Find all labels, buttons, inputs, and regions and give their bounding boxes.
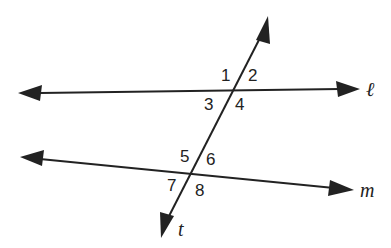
angle-4-label: 4 [235, 95, 244, 114]
arrowhead-down-icon [160, 212, 174, 238]
arrowhead-right-icon [336, 81, 360, 97]
angle-6-label: 6 [206, 150, 215, 169]
angle-3-label: 3 [204, 95, 213, 114]
arrowhead-right-icon [328, 180, 354, 196]
line-t-label: t [178, 218, 184, 240]
line-t [160, 16, 270, 238]
angle-7-label: 7 [167, 176, 176, 195]
angle-5-label: 5 [180, 147, 189, 166]
arrowhead-up-icon [256, 16, 270, 44]
angle-1-label: 1 [221, 66, 230, 85]
transversal-diagram: 1 2 3 4 5 6 7 8 ℓ m t [0, 0, 391, 248]
arrowhead-left-icon [20, 150, 44, 166]
angle-8-label: 8 [195, 181, 204, 200]
line-l [18, 81, 360, 101]
line-l-label: ℓ [366, 78, 375, 100]
line-m-label: m [360, 179, 374, 201]
arrowhead-left-icon [18, 85, 42, 101]
angle-2-label: 2 [248, 66, 257, 85]
